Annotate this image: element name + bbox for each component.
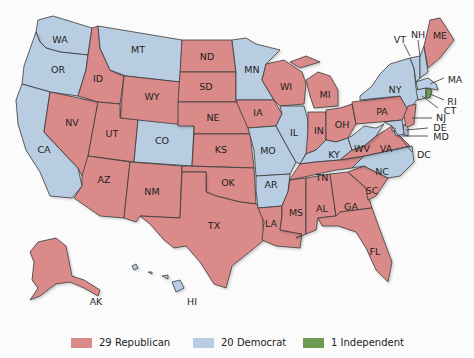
label-ID: ID (93, 73, 103, 84)
label-NE: NE (206, 112, 219, 123)
label-PA: PA (376, 106, 388, 117)
label-WV: WV (354, 143, 370, 154)
label-NC: NC (375, 166, 389, 177)
label-LA: LA (265, 218, 278, 229)
legend-item-democrat: 20 Democrat (193, 337, 286, 348)
label-WA: WA (52, 34, 68, 45)
state-AK[interactable] (30, 238, 100, 300)
label-IN: IN (314, 125, 324, 136)
label-OR: OR (51, 64, 65, 75)
label-CO: CO (155, 135, 169, 146)
label-UT: UT (106, 128, 119, 139)
label-TX: TX (207, 220, 221, 231)
label-IL: IL (290, 127, 299, 138)
legend-label: 1 Independent (331, 337, 404, 348)
label-MS: MS (289, 207, 303, 218)
label-ND: ND (200, 51, 214, 62)
label-AL: AL (316, 203, 328, 214)
label-ME: ME (433, 30, 447, 41)
legend-label: 29 Republican (99, 337, 170, 348)
label-GA: GA (344, 201, 358, 212)
label-KY: KY (328, 149, 340, 160)
label-VA: VA (380, 143, 393, 154)
label-HI: HI (187, 296, 197, 307)
label-WI: WI (280, 81, 292, 92)
label-NH: NH (411, 29, 425, 40)
label-NM: NM (144, 186, 159, 197)
label-SD: SD (199, 81, 212, 92)
label-NV: NV (65, 117, 79, 128)
independent-swatch (303, 338, 324, 348)
label-NY: NY (389, 84, 402, 95)
legend-item-independent: 1 Independent (303, 337, 404, 348)
state-FL[interactable] (318, 208, 392, 282)
us-governors-map: WA OR CA MT ID NV WY UT CO AZ NM ND SD N… (0, 0, 474, 325)
state-HI[interactable] (132, 264, 184, 292)
label-WY: WY (144, 91, 159, 102)
label-MA: MA (448, 74, 463, 85)
label-OK: OK (221, 177, 235, 188)
legend-label: 20 Democrat (221, 337, 286, 348)
legend: 29 Republican 20 Democrat 1 Independent (0, 337, 474, 355)
state-ME[interactable] (424, 18, 454, 68)
label-AK: AK (90, 296, 103, 307)
label-OH: OH (335, 119, 350, 130)
label-DC: DC (417, 149, 431, 160)
label-MO: MO (260, 145, 276, 156)
label-VT: VT (394, 34, 406, 45)
label-MT: MT (131, 44, 145, 55)
label-FL: FL (370, 246, 381, 257)
label-SC: SC (366, 185, 379, 196)
label-CA: CA (37, 144, 51, 155)
label-MI: MI (320, 89, 331, 100)
label-MD: MD (433, 131, 449, 142)
state-RI[interactable] (426, 88, 432, 98)
label-TN: TN (315, 172, 329, 183)
label-IA: IA (253, 107, 263, 118)
democrat-swatch (193, 338, 214, 348)
legend-item-republican: 29 Republican (71, 337, 170, 348)
label-KS: KS (215, 144, 227, 155)
label-MN: MN (244, 64, 259, 75)
label-AR: AR (264, 179, 277, 190)
label-AZ: AZ (97, 174, 110, 185)
republican-swatch (71, 338, 92, 348)
